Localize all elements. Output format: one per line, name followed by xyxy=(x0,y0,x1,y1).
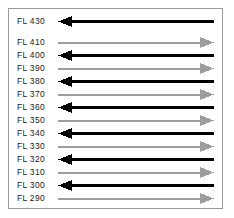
arrow-shaft xyxy=(70,54,214,57)
arrow-shaft xyxy=(70,106,214,109)
flight-level-label: FL 290 xyxy=(17,192,58,205)
flight-level-row: FL 300 xyxy=(9,179,222,192)
flight-level-label: FL 370 xyxy=(17,88,58,101)
westbound-arrow xyxy=(58,153,214,166)
arrow-shaft xyxy=(70,132,214,135)
flight-level-row: FL 380 xyxy=(9,75,222,88)
arrow-shaft xyxy=(58,42,202,44)
flight-level-label: FL 430 xyxy=(17,15,58,28)
arrow-shaft xyxy=(70,20,214,23)
flight-level-row: FL 430 xyxy=(9,15,222,28)
arrow-shaft xyxy=(58,146,202,148)
flight-level-label: FL 330 xyxy=(17,140,58,153)
eastbound-arrow xyxy=(58,114,214,127)
flight-level-label: FL 340 xyxy=(17,127,58,140)
flight-level-label: FL 310 xyxy=(17,166,58,179)
arrow-shaft xyxy=(58,68,202,70)
flight-level-label: FL 320 xyxy=(17,153,58,166)
diagram-frame: FL 430FL 410FL 400FL 390FL 380FL 370FL 3… xyxy=(8,8,223,209)
arrow-shaft xyxy=(70,80,214,83)
eastbound-arrow xyxy=(58,62,214,75)
flight-level-row: FL 390 xyxy=(9,62,222,75)
arrow-head xyxy=(58,154,72,165)
flight-level-row: FL 340 xyxy=(9,127,222,140)
flight-level-label: FL 380 xyxy=(17,75,58,88)
flight-level-label: FL 390 xyxy=(17,62,58,75)
westbound-arrow xyxy=(58,127,214,140)
flight-level-label: FL 400 xyxy=(17,49,58,62)
arrow-shaft xyxy=(58,94,202,96)
arrow-head xyxy=(200,141,214,152)
flight-level-diagram: FL 430FL 410FL 400FL 390FL 380FL 370FL 3… xyxy=(0,0,234,218)
arrow-head xyxy=(200,63,214,74)
westbound-arrow xyxy=(58,75,214,88)
arrow-head xyxy=(200,167,214,178)
flight-level-row: FL 400 xyxy=(9,49,222,62)
arrow-head xyxy=(58,16,72,27)
eastbound-arrow xyxy=(58,192,214,205)
arrow-shaft xyxy=(58,172,202,174)
westbound-arrow xyxy=(58,179,214,192)
flight-level-label: FL 410 xyxy=(17,36,58,49)
arrow-head xyxy=(200,115,214,126)
arrow-head xyxy=(200,193,214,204)
westbound-arrow xyxy=(58,49,214,62)
arrow-shaft xyxy=(70,184,214,187)
flight-level-row: FL 310 xyxy=(9,166,222,179)
arrow-shaft xyxy=(70,158,214,161)
flight-level-row: FL 360 xyxy=(9,101,222,114)
arrow-head xyxy=(58,102,72,113)
flight-level-row: FL 290 xyxy=(9,192,222,205)
flight-level-row: FL 350 xyxy=(9,114,222,127)
arrow-head xyxy=(58,128,72,139)
arrow-head xyxy=(200,89,214,100)
arrow-head xyxy=(58,50,72,61)
arrow-shaft xyxy=(58,198,202,200)
flight-level-label: FL 300 xyxy=(17,179,58,192)
eastbound-arrow xyxy=(58,36,214,49)
westbound-arrow xyxy=(58,101,214,114)
arrow-head xyxy=(58,180,72,191)
flight-level-row: FL 370 xyxy=(9,88,222,101)
flight-level-label: FL 360 xyxy=(17,101,58,114)
arrow-shaft xyxy=(58,120,202,122)
westbound-arrow xyxy=(58,15,214,28)
eastbound-arrow xyxy=(58,140,214,153)
eastbound-arrow xyxy=(58,166,214,179)
flight-level-row: FL 410 xyxy=(9,36,222,49)
arrow-head xyxy=(58,76,72,87)
flight-level-row: FL 330 xyxy=(9,140,222,153)
arrow-head xyxy=(200,37,214,48)
eastbound-arrow xyxy=(58,88,214,101)
flight-level-label: FL 350 xyxy=(17,114,58,127)
flight-level-row: FL 320 xyxy=(9,153,222,166)
